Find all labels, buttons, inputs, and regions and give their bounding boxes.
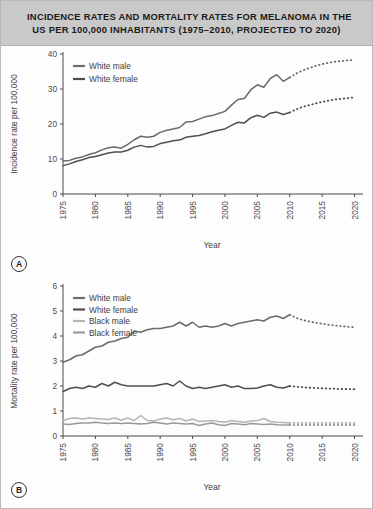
x-tick-label: 2000	[220, 443, 230, 462]
y-tick-label: 40	[48, 49, 58, 59]
y-axis-title: Incidence rate per 100,000	[9, 74, 19, 174]
y-tick-label: 0	[52, 189, 57, 199]
figure-container: INCIDENCE RATES AND MORTALITY RATES FOR …	[0, 0, 373, 509]
y-axis-title: Mortality rate per 100,000	[9, 313, 19, 409]
x-tick-label: 2015	[317, 201, 327, 220]
series-line-white-male	[63, 75, 290, 161]
y-tick-label: 1	[52, 406, 57, 416]
series-projection-white-female	[290, 97, 355, 112]
x-tick-label: 1990	[155, 201, 165, 220]
panel-letter-group: B	[12, 483, 27, 498]
y-tick-label: 2	[52, 381, 57, 391]
x-tick-label: 1985	[123, 443, 133, 462]
x-tick-label: 2015	[317, 443, 327, 462]
legend-label-white-male: White male	[89, 61, 131, 71]
x-tick-label: 1980	[90, 201, 100, 220]
x-tick-label: 1975	[58, 443, 68, 462]
panel-letter-text: B	[16, 485, 22, 495]
x-tick-label: 2020	[350, 201, 360, 220]
chart-panels: 0102030401975198019851990199520002005201…	[1, 46, 372, 500]
x-tick-label: 2005	[252, 443, 262, 462]
y-tick-label: 6	[52, 281, 57, 291]
y-tick-label: 10	[48, 154, 58, 164]
x-tick-label: 1975	[58, 201, 68, 220]
x-tick-label: 1995	[188, 201, 198, 220]
x-tick-label: 1985	[123, 201, 133, 220]
y-tick-label: 5	[52, 306, 57, 316]
series-line-white-female	[63, 381, 290, 392]
figure-title-line-1: INCIDENCE RATES AND MORTALITY RATES FOR …	[27, 10, 346, 23]
panel-letter-text: A	[16, 259, 22, 269]
panel-b-mortality: 0123456197519801985199019952000200520102…	[1, 278, 373, 500]
legend-label-white-male: White male	[89, 293, 131, 303]
legend-label-white-female: White female	[89, 305, 138, 315]
panel-a-svg: 0102030401975198019851990199520002005201…	[1, 46, 373, 278]
x-tick-label: 1980	[90, 443, 100, 462]
legend-label-white-female: White female	[89, 74, 138, 84]
panel-b-svg: 0123456197519801985199019952000200520102…	[1, 278, 373, 500]
series-line-black-female	[63, 422, 290, 425]
x-tick-label: 2000	[220, 201, 230, 220]
y-tick-label: 4	[52, 331, 57, 341]
panel-a-incidence: 0102030401975198019851990199520002005201…	[1, 46, 373, 278]
legend-label-black-female: Black female	[89, 328, 137, 338]
x-tick-label: 1995	[188, 443, 198, 462]
series-projection-white-male	[290, 315, 355, 328]
series-line-white-female	[63, 112, 290, 166]
series-projection-white-female	[290, 386, 355, 389]
x-tick-label: 2010	[285, 201, 295, 220]
legend-label-black-male: Black male	[89, 316, 130, 326]
x-tick-label: 2020	[350, 443, 360, 462]
figure-title-line-2: US PER 100,000 INHABITANTS (1975–2010, P…	[27, 23, 346, 36]
x-axis-title: Year	[204, 240, 221, 250]
series-projection-white-male	[290, 60, 355, 77]
y-tick-label: 20	[48, 119, 58, 129]
x-axis-title: Year	[204, 482, 221, 492]
y-tick-label: 0	[52, 431, 57, 441]
figure-title-band: INCIDENCE RATES AND MORTALITY RATES FOR …	[1, 1, 372, 46]
x-tick-label: 1990	[155, 443, 165, 462]
y-tick-label: 3	[52, 356, 57, 366]
x-tick-label: 2010	[285, 443, 295, 462]
panel-letter-group: A	[12, 257, 27, 272]
x-tick-label: 2005	[252, 201, 262, 220]
y-tick-label: 30	[48, 84, 58, 94]
